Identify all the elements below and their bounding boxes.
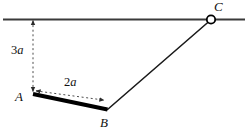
rod-bc	[108, 21, 210, 110]
rod-ab	[33, 94, 108, 110]
pivot-circle-c	[207, 15, 215, 23]
diagram-canvas	[0, 0, 249, 133]
dimension-label-3a: 3a	[11, 44, 24, 57]
point-label-b: B	[100, 116, 108, 129]
dimension-label-2a: 2a	[64, 76, 77, 89]
dimension-3a-symbol: a	[17, 43, 23, 57]
physics-diagram: A B C 3a 2a	[0, 0, 249, 133]
point-label-c: C	[214, 0, 223, 13]
point-label-a: A	[15, 90, 23, 103]
dimension-2a-symbol: a	[70, 75, 76, 89]
